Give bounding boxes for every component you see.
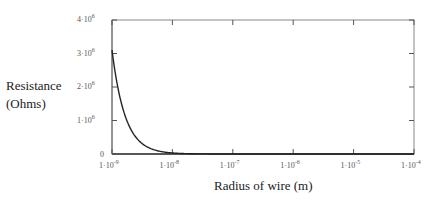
x-tick-label: 1·10-9 (99, 159, 119, 170)
y-tick-label: 0 (100, 150, 104, 159)
y-tick-label: 4·106 (77, 13, 95, 24)
y-axis-label-line1: Resistance (6, 78, 62, 94)
y-tick-label: 2·106 (77, 80, 95, 91)
x-tick-label: 1·10-5 (341, 159, 361, 170)
x-tick-label: 1·10-4 (401, 159, 421, 170)
y-tick-label: 3·106 (77, 47, 95, 58)
x-tick-label: 1·10-7 (220, 159, 240, 170)
chart-svg: 1·10-91·10-81·10-71·10-61·10-51·10-401·1… (0, 0, 443, 206)
x-tick-label: 1·10-6 (280, 159, 300, 170)
x-tick-label: 1·10-8 (159, 159, 179, 170)
plot-frame (112, 20, 414, 154)
resistance-curve (112, 50, 414, 154)
x-axis-label: Radius of wire (m) (214, 178, 313, 194)
y-tick-label: 1·106 (77, 114, 95, 125)
y-axis-label-line2: (Ohms) (6, 96, 46, 112)
